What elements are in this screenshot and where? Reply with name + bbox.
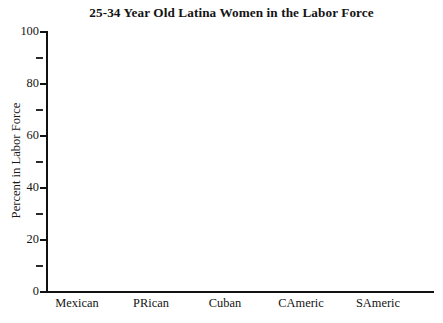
y-tick-label: 20	[0, 232, 39, 247]
page-title: 25-34 Year Old Latina Women in the Labor…	[0, 5, 443, 21]
y-tick-label-wrap: 100	[0, 24, 39, 38]
y-tick-minor	[36, 213, 43, 215]
y-tick-label-wrap: 40	[0, 180, 39, 194]
y-tick-minor	[36, 265, 43, 267]
y-tick-minor	[36, 109, 43, 111]
y-tick-label-wrap: 80	[0, 76, 39, 90]
y-tick-major	[40, 83, 46, 85]
y-tick-label-wrap: 60	[0, 128, 39, 142]
y-tick-minor	[36, 57, 43, 59]
x-axis-label-samericl: SAmeric	[318, 296, 438, 311]
y-tick-major	[40, 31, 46, 33]
y-tick-label: 60	[0, 128, 39, 143]
plot-area	[48, 31, 434, 291]
y-tick-label-wrap: 20	[0, 232, 39, 246]
y-tick-major	[40, 239, 46, 241]
y-tick-label: 80	[0, 76, 39, 91]
y-tick-major	[40, 291, 46, 293]
y-tick-major	[40, 135, 46, 137]
y-tick-label: 100	[0, 24, 39, 39]
y-tick-label: 40	[0, 180, 39, 195]
x-axis-line	[46, 291, 434, 293]
y-axis-title: Percent in Labor Force	[9, 91, 24, 231]
chart-figure: 25-34 Year Old Latina Women in the Labor…	[0, 0, 443, 323]
y-tick-minor	[36, 161, 43, 163]
y-tick-major	[40, 187, 46, 189]
